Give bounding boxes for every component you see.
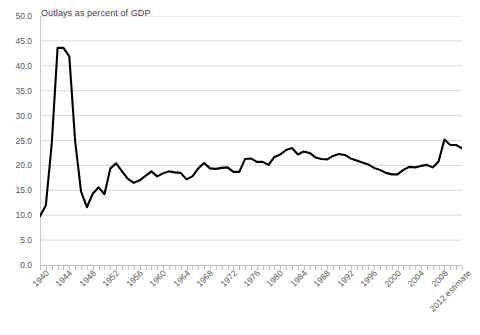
- x-axis-tick-label: 1944: [54, 268, 75, 289]
- gridlines: [40, 16, 462, 265]
- y-axis-tick-label: 5.0: [20, 235, 32, 245]
- plot-area: [40, 16, 462, 265]
- chart-container: Outlays as percent of GDP 0.05.010.015.0…: [0, 0, 480, 335]
- y-axis-tick-label: 40.0: [15, 61, 32, 71]
- x-axis-tick-labels: 1940194419481952195619601964196819721976…: [40, 268, 470, 335]
- y-axis-tick-label: 45.0: [15, 36, 32, 46]
- y-axis-tick-label: 20.0: [15, 160, 32, 170]
- data-series-line: [40, 48, 462, 216]
- y-axis-tick-label: 15.0: [15, 185, 32, 195]
- y-axis-tick-label: 0.0: [20, 260, 32, 270]
- x-axis-tick-label: 1960: [148, 268, 169, 289]
- x-axis-tick-label: 1984: [288, 268, 309, 289]
- x-axis-tick-label: 2000: [382, 268, 403, 289]
- x-axis-tick-label: 1992: [335, 268, 356, 289]
- y-axis-tick-labels: 0.05.010.015.020.025.030.035.040.045.050…: [0, 16, 36, 265]
- x-axis-tick-label: 1972: [218, 268, 239, 289]
- x-axis-tick-label: 1980: [265, 268, 286, 289]
- y-axis-tick-label: 10.0: [15, 210, 32, 220]
- x-axis-tick-label: 1988: [312, 268, 333, 289]
- x-axis-tick-label: 1948: [77, 268, 98, 289]
- x-axis-tick-label: 1940: [30, 268, 51, 289]
- y-axis-tick-label: 25.0: [15, 136, 32, 146]
- x-axis-tick-label: 1976: [241, 268, 262, 289]
- y-axis-tick-label: 35.0: [15, 86, 32, 96]
- x-axis-tick-label: 1968: [194, 268, 215, 289]
- x-axis-tick-label: 1996: [359, 268, 380, 289]
- y-axis-tick-label: 30.0: [15, 111, 32, 121]
- x-axis-tick-label: 1964: [171, 268, 192, 289]
- plot-svg: [40, 16, 462, 265]
- y-axis-tick-label: 50.0: [15, 11, 32, 21]
- x-axis-tick-label: 1956: [124, 268, 145, 289]
- x-axis-tick-label: 2004: [405, 268, 426, 289]
- x-axis-tick-label: 1952: [101, 268, 122, 289]
